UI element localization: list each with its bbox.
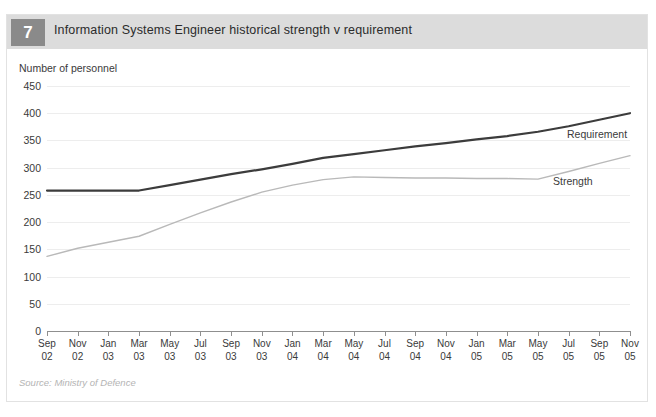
x-tick-label: Jul05 [562, 338, 575, 363]
x-tick [200, 331, 201, 336]
x-tick-label: Jan03 [100, 338, 116, 363]
x-tick [538, 331, 539, 336]
x-tick [262, 331, 263, 336]
x-tick [323, 331, 324, 336]
x-tick [415, 331, 416, 336]
x-tick-label: Jul03 [194, 338, 207, 363]
x-tick-label: May04 [344, 338, 363, 363]
figure-number-badge: 7 [11, 19, 45, 46]
x-tick-label: Jul04 [378, 338, 391, 363]
x-tick-label: Jan04 [284, 338, 300, 363]
x-tick [354, 331, 355, 336]
x-axis-line [47, 331, 630, 332]
x-tick [385, 331, 386, 336]
x-tick-label: Mar05 [499, 338, 516, 363]
x-tick [599, 331, 600, 336]
page-title: Information Systems Engineer historical … [54, 23, 412, 37]
y-tick-label: 50 [1, 298, 41, 310]
x-tick [139, 331, 140, 336]
y-tick-label: 400 [1, 107, 41, 119]
chart-page: 7 Information Systems Engineer historica… [0, 0, 656, 417]
series-label-requirement: Requirement [567, 128, 627, 140]
y-tick-label: 100 [1, 271, 41, 283]
x-tick-label: May05 [528, 338, 547, 363]
x-tick-label: Nov04 [437, 338, 455, 363]
series-label-strength: Strength [553, 175, 593, 187]
x-tick [170, 331, 171, 336]
y-tick-label: 300 [1, 162, 41, 174]
x-tick-label: Sep05 [590, 338, 608, 363]
x-tick [292, 331, 293, 336]
x-tick-label: Mar03 [130, 338, 147, 363]
x-tick-label: Nov05 [621, 338, 639, 363]
x-tick [507, 331, 508, 336]
y-tick-label: 0 [1, 325, 41, 337]
y-tick-label: 250 [1, 189, 41, 201]
y-axis-ticks: 050100150200250300350400450 [0, 86, 41, 331]
x-tick-label: Sep03 [222, 338, 240, 363]
x-tick [231, 331, 232, 336]
x-tick-label: Nov03 [253, 338, 271, 363]
series-line-strength [47, 156, 630, 257]
x-tick [569, 331, 570, 336]
x-tick [78, 331, 79, 336]
y-axis-title: Number of personnel [19, 62, 117, 74]
source-note: Source: Ministry of Defence [19, 377, 136, 388]
x-tick [446, 331, 447, 336]
y-tick-label: 200 [1, 216, 41, 228]
x-tick [47, 331, 48, 336]
series-lines [47, 86, 630, 331]
x-tick-label: Sep02 [38, 338, 56, 363]
x-tick-label: Nov02 [69, 338, 87, 363]
x-tick-label: Sep04 [406, 338, 424, 363]
x-tick-label: Jan05 [469, 338, 485, 363]
y-tick-label: 450 [1, 80, 41, 92]
y-tick-label: 150 [1, 243, 41, 255]
x-tick-label: May03 [160, 338, 179, 363]
y-tick-label: 350 [1, 134, 41, 146]
x-tick [630, 331, 631, 336]
x-tick [477, 331, 478, 336]
x-tick-label: Mar04 [315, 338, 332, 363]
x-tick [108, 331, 109, 336]
